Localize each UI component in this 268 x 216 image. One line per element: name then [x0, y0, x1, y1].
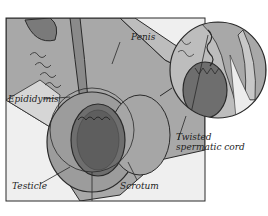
- main-panel: [6, 18, 205, 201]
- label-epididymis: Epididymis: [8, 94, 59, 104]
- label-scrotum: Scrotum: [120, 181, 159, 191]
- anatomy-figure: Penis Epididymis Testicle Scrotum Twiste…: [0, 0, 268, 216]
- label-testicle: Testicle: [12, 181, 47, 191]
- label-twisted-cord-line1: Twisted: [176, 132, 212, 142]
- label-penis: Penis: [131, 32, 155, 42]
- label-twisted-cord-line2: spermatic cord: [176, 142, 245, 152]
